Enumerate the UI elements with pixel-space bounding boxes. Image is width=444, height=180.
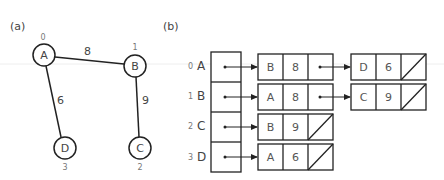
edge-weight-a-b: 8 xyxy=(84,45,91,58)
node-vertex: C xyxy=(360,91,368,104)
row-index: 3 xyxy=(188,153,193,162)
list-node-1-1: C 9 xyxy=(351,84,426,110)
row-vertex: B xyxy=(197,89,205,103)
node-vertex: A xyxy=(267,151,275,164)
graph-node-d: D 3 xyxy=(54,137,76,172)
row-index: 0 xyxy=(188,62,193,71)
node-label: B xyxy=(131,60,139,73)
node-weight: 9 xyxy=(385,91,392,104)
head-array xyxy=(211,52,241,172)
adjacency-list: 0 A 1 B 2 C 3 D B xyxy=(188,52,426,172)
list-node-3-0: A 6 xyxy=(258,144,333,170)
edge-weight-a-d: 6 xyxy=(57,94,64,107)
graph-node-c: C 2 xyxy=(129,137,151,172)
graph-node-a: A 0 xyxy=(33,33,55,66)
node-index: 1 xyxy=(132,43,137,52)
list-node-1-0: A 8 xyxy=(258,84,350,110)
row-index: 1 xyxy=(188,92,193,101)
node-weight: 9 xyxy=(292,121,299,134)
node-label: D xyxy=(61,142,69,155)
panel-a-label: (a) xyxy=(10,20,25,33)
row-vertex: C xyxy=(197,119,205,133)
list-node-0-0: B 8 xyxy=(258,54,350,80)
node-index: 3 xyxy=(62,163,67,172)
node-vertex: D xyxy=(359,61,367,74)
node-weight: 8 xyxy=(292,91,299,104)
node-vertex: B xyxy=(267,121,275,134)
node-vertex: A xyxy=(267,91,275,104)
node-label: A xyxy=(40,49,48,62)
node-label: C xyxy=(136,142,144,155)
node-index: 0 xyxy=(40,33,45,42)
row-vertex: A xyxy=(197,59,206,73)
graph: 8 6 9 A 0 B 1 C 2 D 3 xyxy=(33,33,151,172)
panel-b-label: (b) xyxy=(163,20,179,33)
node-weight: 6 xyxy=(385,61,392,74)
edge-weight-b-c: 9 xyxy=(142,94,149,107)
node-index: 2 xyxy=(137,163,142,172)
row-vertex: D xyxy=(197,150,206,164)
node-weight: 6 xyxy=(292,151,299,164)
list-node-2-0: B 9 xyxy=(258,114,333,140)
row-index: 2 xyxy=(188,122,193,131)
list-node-0-1: D 6 xyxy=(351,54,426,80)
edge-a-b xyxy=(55,57,124,64)
edge-b-c xyxy=(136,77,139,137)
graph-node-b: B 1 xyxy=(124,43,146,77)
node-weight: 8 xyxy=(292,61,299,74)
node-vertex: B xyxy=(267,61,275,74)
